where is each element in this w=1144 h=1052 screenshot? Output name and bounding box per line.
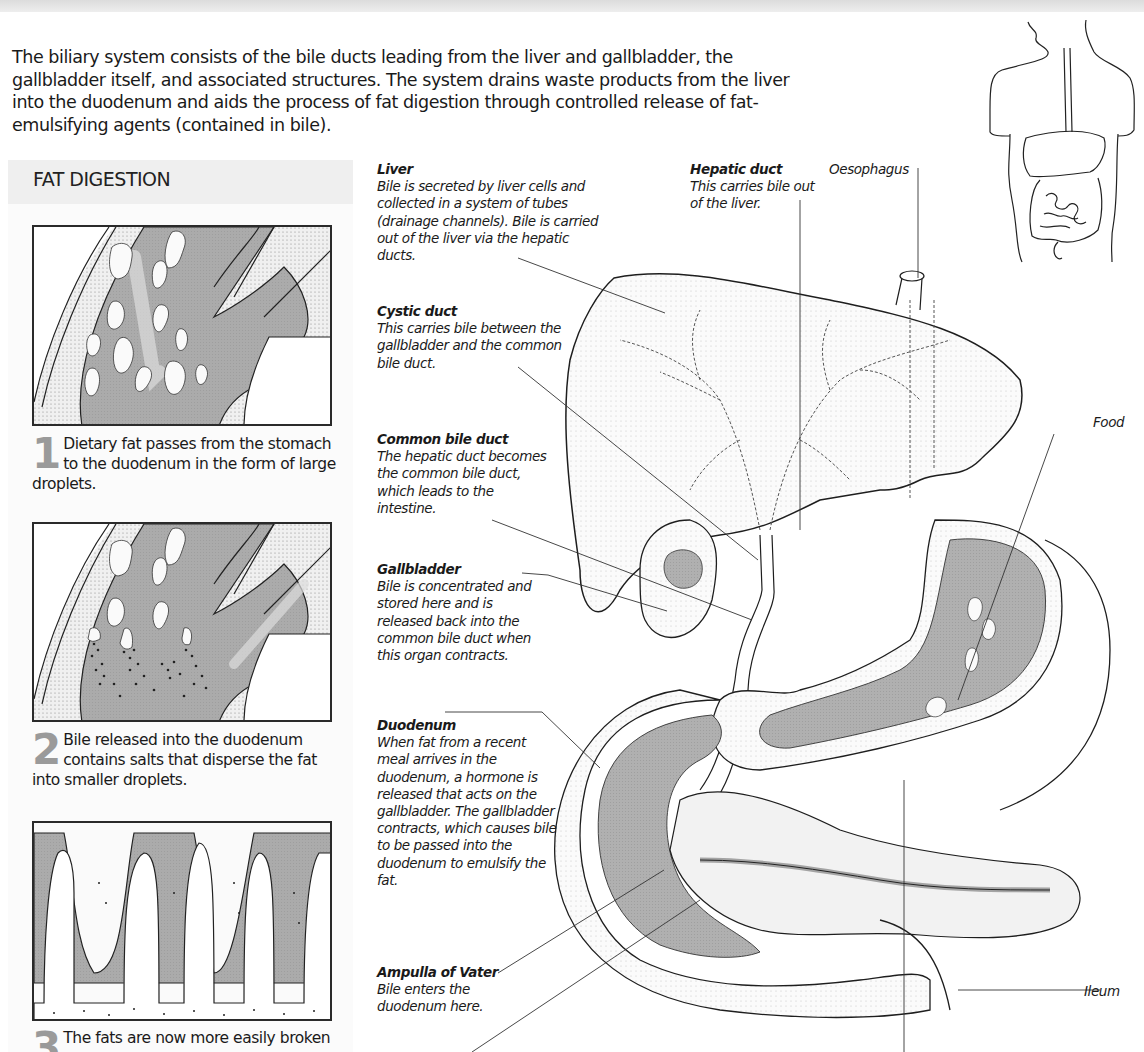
- duodenum-shape: [555, 690, 930, 1018]
- step-2-caption: 2 Bile released into the duodenum contai…: [32, 730, 342, 790]
- label-ampulla-desc: Bile enters the duodenum here.: [377, 981, 517, 1015]
- step-1-illustration: [32, 225, 332, 426]
- label-gallbladder-desc: Bile is concentrated and stored here and…: [377, 578, 547, 664]
- label-common-bile-duct: Common bile duct The hepatic duct become…: [377, 431, 547, 517]
- label-liver-title: Liver: [377, 161, 607, 178]
- label-ileum-title: Ileum: [1084, 983, 1134, 1000]
- label-cystic-duct-title: Cystic duct: [377, 303, 577, 320]
- fat-digestion-sidebar: FAT DIGESTION: [8, 160, 353, 1052]
- pancreas-shape: [670, 792, 1080, 938]
- top-edge-strip: [0, 0, 1144, 12]
- step-3-text: The fats are now more easily broken: [63, 1029, 330, 1047]
- step-1-text: Dietary fat passes from the stomach to t…: [32, 435, 336, 493]
- label-ileum: Ileum: [1084, 983, 1134, 1000]
- sidebar-header: FAT DIGESTION: [8, 160, 353, 204]
- label-duodenum-desc: When fat from a recent meal arrives in t…: [377, 734, 557, 889]
- step-3-caption: 3 The fats are now more easily broken: [32, 1028, 342, 1052]
- label-oesophagus-title: Oesophagus: [829, 161, 929, 178]
- label-ampulla-title: Ampulla of Vater: [377, 964, 517, 981]
- step-3-number: 3: [32, 1030, 59, 1052]
- step-2-text: Bile released into the duodenum contains…: [32, 731, 317, 789]
- label-common-bile-duct-desc: The hepatic duct becomes the common bile…: [377, 448, 547, 517]
- label-oesophagus: Oesophagus: [829, 161, 929, 178]
- label-duodenum: Duodenum When fat from a recent meal arr…: [377, 717, 557, 889]
- label-liver: Liver Bile is secreted by liver cells an…: [377, 161, 607, 264]
- label-common-bile-duct-title: Common bile duct: [377, 431, 547, 448]
- step-2-illustration: [32, 522, 332, 722]
- label-hepatic-duct-title: Hepatic duct: [690, 161, 820, 178]
- label-duodenum-title: Duodenum: [377, 717, 557, 734]
- liver-shape: [566, 274, 1022, 612]
- gallbladder-shape: [640, 520, 717, 637]
- label-gallbladder: Gallbladder Bile is concentrated and sto…: [377, 561, 547, 664]
- sidebar-title: FAT DIGESTION: [33, 168, 170, 190]
- oesophagus-tube: [896, 278, 922, 310]
- label-cystic-duct: Cystic duct This carries bile between th…: [377, 303, 577, 372]
- intro-paragraph: The biliary system consists of the bile …: [12, 46, 792, 136]
- step-2-number: 2: [32, 732, 59, 768]
- step-1-number: 1: [32, 436, 59, 472]
- stomach-shape: [712, 520, 1062, 770]
- label-gallbladder-title: Gallbladder: [377, 561, 547, 578]
- label-liver-desc: Bile is secreted by liver cells and coll…: [377, 178, 607, 264]
- label-hepatic-duct: Hepatic duct This carries bile out of th…: [690, 161, 820, 213]
- label-hepatic-duct-desc: This carries bile out of the liver.: [690, 178, 820, 212]
- step-1-caption: 1 Dietary fat passes from the stomach to…: [32, 434, 342, 494]
- step-3-illustration: [32, 821, 332, 1021]
- label-food-title: Food: [1093, 414, 1143, 431]
- label-food: Food: [1093, 414, 1143, 431]
- label-ampulla-of-vater: Ampulla of Vater Bile enters the duodenu…: [377, 964, 517, 1016]
- label-cystic-duct-desc: This carries bile between the gallbladde…: [377, 320, 577, 372]
